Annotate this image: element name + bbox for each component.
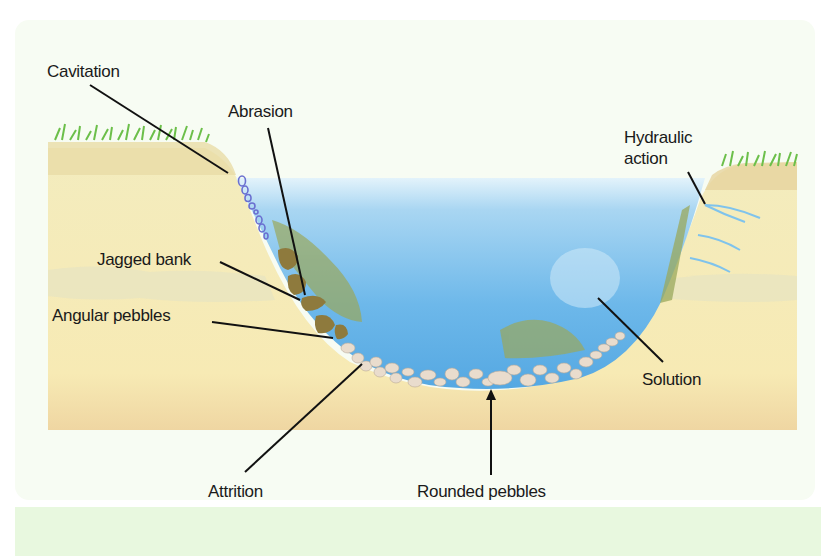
river-cross-section bbox=[0, 0, 821, 556]
label-solution: Solution bbox=[642, 370, 701, 389]
grass-left-icon bbox=[55, 124, 209, 142]
label-hydraulic-action-line2: action bbox=[624, 149, 668, 168]
label-hydraulic-action-line1: Hydraulic bbox=[624, 128, 692, 147]
label-abrasion: Abrasion bbox=[228, 102, 293, 121]
label-rounded-pebbles: Rounded pebbles bbox=[417, 482, 546, 501]
label-jagged-bank: Jagged bank bbox=[97, 250, 191, 269]
label-angular-pebbles: Angular pebbles bbox=[52, 306, 170, 325]
label-cavitation: Cavitation bbox=[47, 62, 120, 81]
label-attrition: Attrition bbox=[208, 482, 263, 501]
